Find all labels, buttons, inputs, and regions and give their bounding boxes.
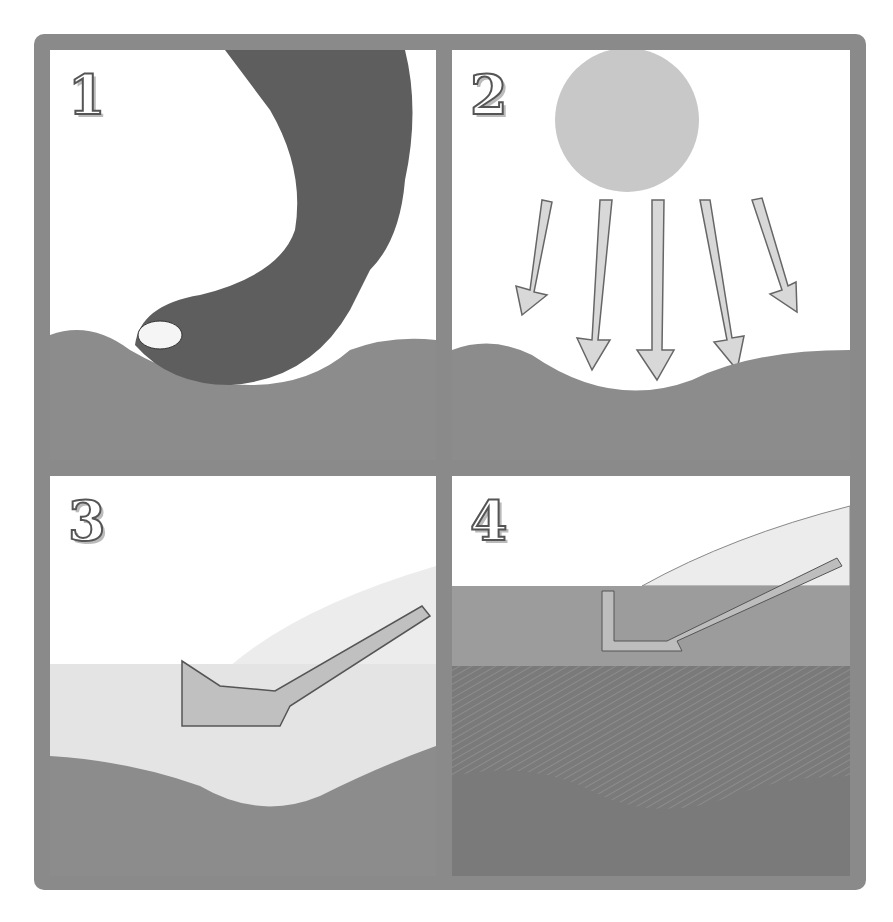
panel-4-growth: 4 (452, 476, 850, 876)
hoof-illustration (50, 50, 436, 460)
growth-illustration (452, 476, 850, 876)
seeding-illustration (50, 476, 436, 876)
step-number-2: 2 (470, 68, 508, 122)
step-number-4: 4 (470, 494, 508, 548)
panel-3-seeding: 3 (50, 476, 436, 876)
step-number-1: 1 (68, 68, 106, 122)
step-number-3: 3 (68, 494, 106, 548)
panel-1-hoof: 1 (50, 50, 436, 460)
sun-illustration (452, 50, 850, 460)
panel-2-sun: 2 (452, 50, 850, 460)
